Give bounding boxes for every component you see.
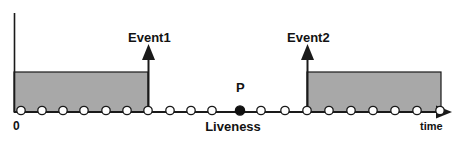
timeline-point-marker — [208, 106, 216, 114]
timeline-point-marker-p — [235, 106, 244, 115]
timeline-point-marker — [102, 106, 110, 114]
event1-label: Event1 — [128, 31, 171, 44]
event2-label: Event2 — [287, 31, 330, 44]
liveness-timeline-figure: Event1 Event2 P 0 Liveness time — [0, 0, 460, 142]
timeline-point-marker — [369, 106, 377, 114]
liveness-axis-label: Liveness — [200, 120, 266, 133]
timeline-point-marker — [187, 106, 195, 114]
event1-arrowhead — [142, 44, 155, 60]
timeline-point-marker — [303, 106, 311, 114]
timeline-point-marker — [59, 106, 67, 114]
time-axis-label: time — [420, 121, 443, 132]
origin-label: 0 — [13, 120, 20, 132]
timeline-point-marker — [38, 106, 46, 114]
point-p-label: P — [236, 81, 245, 94]
event2-arrowhead — [301, 44, 314, 60]
shaded-intervals-group — [14, 72, 441, 112]
timeline-point-marker — [347, 106, 355, 114]
timeline-point-marker — [123, 106, 131, 114]
timeline-point-marker — [281, 106, 289, 114]
timeline-point-marker — [144, 106, 152, 114]
timeline-point-marker — [436, 106, 444, 114]
timeline-point-marker — [413, 106, 421, 114]
timeline-point-marker — [166, 106, 174, 114]
timeline-point-marker — [391, 106, 399, 114]
timeline-point-marker — [80, 106, 88, 114]
timeline-point-marker — [257, 106, 265, 114]
timeline-point-marker — [325, 106, 333, 114]
timeline-point-marker — [17, 106, 25, 114]
